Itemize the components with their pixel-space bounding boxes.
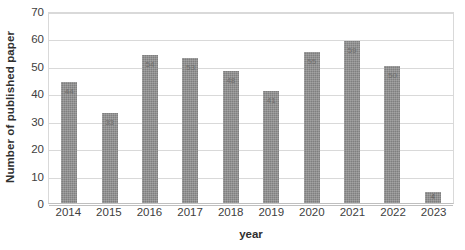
- y-axis-tick-label: 70: [31, 6, 44, 18]
- x-axis-tick-labels: 2014201520162017201820192020202120222023: [48, 206, 454, 224]
- x-axis-title: year: [48, 228, 454, 240]
- x-axis-tick-label: 2018: [210, 206, 251, 224]
- bar-slot: 50: [372, 13, 412, 203]
- bar-value-label: 53: [186, 64, 195, 72]
- x-axis-tick-label: 2023: [413, 206, 454, 224]
- bar-slot: 55: [291, 13, 331, 203]
- bar-slot: 33: [89, 13, 129, 203]
- bar-value-label: 44: [65, 88, 74, 96]
- x-axis-tick-label: 2022: [373, 206, 414, 224]
- y-axis-tick-label: 50: [31, 61, 44, 73]
- bar-value-label: 59: [348, 47, 357, 55]
- bar-slot: 59: [332, 13, 372, 203]
- y-axis-tick-label: 30: [31, 116, 44, 128]
- plot-area: 4433545348415559504: [48, 12, 454, 204]
- y-axis-tick-label: 0: [38, 198, 44, 210]
- bar-value-label: 33: [105, 119, 114, 127]
- bar[interactable]: 44: [61, 82, 77, 203]
- bar[interactable]: 53: [182, 58, 198, 203]
- bar-value-label: 48: [226, 77, 235, 85]
- y-axis-title: Number of published paper: [2, 2, 18, 212]
- bar-value-label: 4: [431, 193, 435, 200]
- bar-slot: 54: [130, 13, 170, 203]
- x-axis-tick-label: 2015: [89, 206, 130, 224]
- x-axis-tick-label: 2017: [170, 206, 211, 224]
- bar[interactable]: 59: [344, 41, 360, 203]
- bar-slot: 48: [211, 13, 251, 203]
- y-axis-tick-labels: 010203040506070: [18, 12, 44, 204]
- x-axis-tick-label: 2014: [48, 206, 89, 224]
- y-axis-tick-label: 40: [31, 88, 44, 100]
- bar[interactable]: 41: [263, 91, 279, 203]
- x-axis-tick-label: 2020: [292, 206, 333, 224]
- y-axis-tick-label: 20: [31, 143, 44, 155]
- y-axis-tick-label: 60: [31, 33, 44, 45]
- bar-value-label: 50: [388, 72, 397, 80]
- bar[interactable]: 50: [384, 66, 400, 203]
- bar[interactable]: 33: [102, 113, 118, 204]
- x-axis-tick-label: 2016: [129, 206, 170, 224]
- bar[interactable]: 48: [223, 71, 239, 203]
- x-axis-tick-label: 2019: [251, 206, 292, 224]
- bars-container: 4433545348415559504: [49, 13, 453, 203]
- bar-slot: 44: [49, 13, 89, 203]
- x-axis-tick-label: 2021: [332, 206, 373, 224]
- bar-chart: Number of published paper 01020304050607…: [0, 0, 465, 250]
- bar-slot: 53: [170, 13, 210, 203]
- y-axis-tick-label: 10: [31, 171, 44, 183]
- bar[interactable]: 4: [425, 192, 441, 203]
- bar-value-label: 41: [267, 97, 276, 105]
- bar-slot: 4: [413, 13, 453, 203]
- bar-slot: 41: [251, 13, 291, 203]
- bar-value-label: 54: [146, 61, 155, 69]
- bar-value-label: 55: [307, 58, 316, 66]
- bar[interactable]: 55: [304, 52, 320, 203]
- bar[interactable]: 54: [142, 55, 158, 203]
